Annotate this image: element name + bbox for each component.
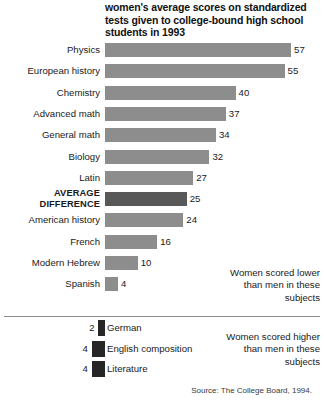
bar [105, 86, 236, 100]
bar-row: Advanced math37 [0, 107, 324, 129]
bar-row: General math34 [0, 128, 324, 150]
negative-bar-value-label: 4 [52, 342, 88, 356]
bar [105, 277, 118, 291]
bar [105, 192, 187, 206]
bar-value-label: 34 [219, 128, 230, 142]
bar-value-label: 55 [288, 64, 299, 78]
negative-bar-category-label: German [107, 321, 142, 335]
chart-title-line-1: women's average scores on standardized [105, 1, 307, 13]
bar [105, 213, 183, 227]
bar-value-label: 24 [186, 213, 197, 227]
bar-row: French16 [0, 235, 324, 257]
bar [105, 150, 209, 164]
bar-category-label: Spanish [0, 277, 100, 291]
negative-bar-value-label: 2 [58, 321, 94, 335]
bar-row: Biology32 [0, 150, 324, 172]
bar [105, 107, 226, 121]
annotation-women-scored-lower: Women scored lower than men in these sub… [214, 267, 320, 304]
bar-category-label: French [0, 235, 100, 249]
zero-axis-divider [4, 316, 320, 317]
bar-value-label: 16 [160, 235, 171, 249]
chart-title-line-3: students in 1993 [105, 26, 185, 38]
bar-category-label: American history [0, 213, 100, 227]
bar-category-label: General math [0, 128, 100, 142]
source-caption: Source: The College Board, 1994. [0, 386, 312, 396]
bar-value-label: 25 [190, 192, 201, 206]
bar-category-label: Modern Hebrew [0, 256, 100, 270]
negative-bar [98, 320, 105, 336]
bar-category-label: AVERAGEDIFFERENCE [0, 188, 100, 209]
annotation-women-scored-higher: Women scored higher than men in these su… [214, 331, 320, 368]
bar-category-label: Biology [0, 150, 100, 164]
bar [105, 171, 193, 185]
bar-value-label: 4 [121, 277, 126, 291]
bar-value-label: 57 [294, 43, 305, 57]
negative-bar [92, 361, 105, 377]
bar-category-label: Advanced math [0, 107, 100, 121]
bar [105, 64, 285, 78]
negative-bar [92, 341, 105, 357]
bar-row: European history55 [0, 64, 324, 86]
bar-category-label: Chemistry [0, 86, 100, 100]
bar [105, 256, 138, 270]
chart-title-line-2: tests given to college-bound high school [105, 14, 303, 26]
bar-row: Chemistry40 [0, 86, 324, 108]
bar-category-label: Latin [0, 171, 100, 185]
bar-value-label: 27 [196, 171, 207, 185]
negative-bar-value-label: 4 [52, 362, 88, 376]
bar-value-label: 40 [239, 86, 250, 100]
bar-value-label: 37 [229, 107, 240, 121]
bar-row: Physics57 [0, 43, 324, 65]
bar-category-label: Physics [0, 43, 100, 57]
chart-figure: women's average scores on standardized t… [0, 0, 324, 403]
bar-category-label: European history [0, 64, 100, 78]
bar-value-label: 10 [141, 256, 152, 270]
bar-value-label: 32 [212, 150, 223, 164]
bar [105, 43, 291, 57]
chart-title: women's average scores on standardized t… [105, 1, 319, 39]
bar-row: AVERAGEDIFFERENCE25 [0, 192, 324, 214]
bar-row: American history24 [0, 213, 324, 235]
bar [105, 235, 157, 249]
bar [105, 128, 216, 142]
negative-bar-category-label: English composition [107, 342, 192, 356]
negative-bar-category-label: Literature [107, 362, 148, 376]
